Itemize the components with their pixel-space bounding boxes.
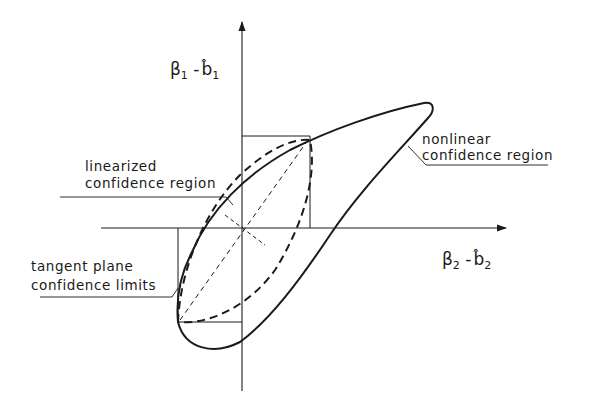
annotation-nonlinear: nonlinear confidence region — [422, 131, 553, 163]
annotation-linearized-line1: linearized — [85, 158, 157, 174]
annotation-nonlinear-line1: nonlinear — [422, 131, 491, 147]
minor-axis-dashed — [225, 215, 265, 245]
annotation-tangent: tangent plane confidence limits — [31, 258, 156, 293]
confidence-region-diagram: β1 -b̂1 β2 -b̂2 nonlinear confidence reg… — [0, 0, 604, 415]
annotation-linearized-line2: confidence region — [85, 175, 216, 191]
x-axis-label: β2 -b̂2 — [442, 249, 491, 272]
y-axis-label: β1 -b̂1 — [170, 59, 219, 82]
leader-linearized — [60, 197, 233, 205]
annotation-tangent-line2: confidence limits — [31, 277, 156, 293]
annotation-linearized: linearized confidence region — [85, 158, 216, 191]
annotation-nonlinear-line2: confidence region — [422, 147, 553, 163]
annotation-tangent-line1: tangent plane — [31, 258, 133, 274]
